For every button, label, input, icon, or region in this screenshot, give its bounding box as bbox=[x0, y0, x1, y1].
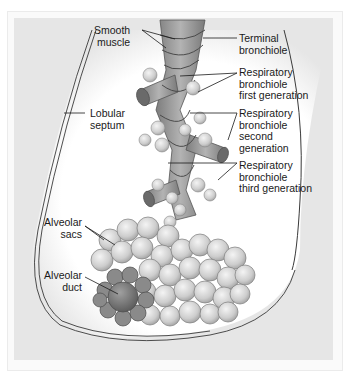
label-smooth-muscle: Smooth muscle bbox=[94, 25, 130, 48]
label-lobular-septum: Lobular septum bbox=[90, 108, 160, 131]
label-terminal-bronchiole: Terminal bronchiole bbox=[239, 33, 287, 56]
label-resp-bronchiole-1: Respiratory bronchiole first generation bbox=[239, 67, 308, 102]
label-resp-bronchiole-3: Respiratory bronchiole third generation bbox=[239, 160, 312, 195]
label-alveolar-sacs: Alveolar sacs bbox=[35, 217, 82, 240]
label-resp-bronchiole-2: Respiratory bronchiole second generation bbox=[239, 108, 293, 154]
label-alveolar-duct: Alveolar duct bbox=[35, 270, 82, 293]
